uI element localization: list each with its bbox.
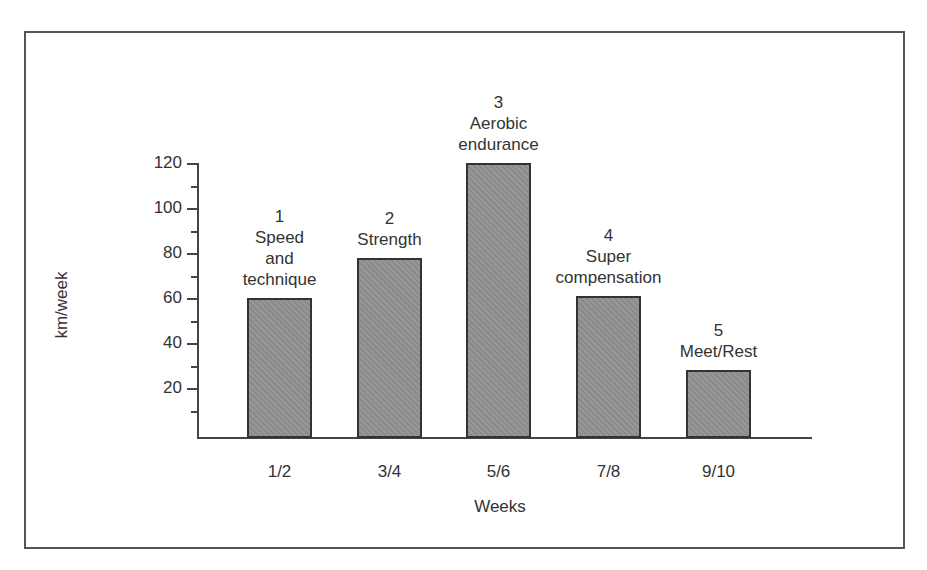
bar-annotation: 5 Meet/Rest — [639, 320, 799, 362]
y-tick-label: 80 — [122, 243, 182, 263]
y-tick-label: 20 — [122, 378, 182, 398]
y-axis-line — [197, 163, 199, 438]
bar-9-10 — [686, 370, 751, 438]
x-tick-label: 3/4 — [350, 462, 430, 482]
bar-annotation: 3 Aerobic endurance — [419, 92, 579, 155]
x-tick-label: 9/10 — [679, 462, 759, 482]
x-axis-label: Weeks — [420, 497, 580, 517]
bar-5-6 — [466, 163, 531, 438]
y-tick-label: 60 — [122, 288, 182, 308]
x-tick-label: 5/6 — [459, 462, 539, 482]
bar-1-2 — [247, 298, 312, 438]
x-tick-label: 1/2 — [240, 462, 320, 482]
y-tick-label: 100 — [122, 198, 182, 218]
x-tick-label: 7/8 — [569, 462, 649, 482]
bar-annotation: 4 Super compensation — [529, 225, 689, 288]
bar-3-4 — [357, 258, 422, 439]
y-tick-label: 40 — [122, 333, 182, 353]
bar-7-8 — [576, 296, 641, 438]
y-tick-label: 120 — [122, 153, 182, 173]
y-axis-label: km/week — [52, 245, 72, 365]
bar-annotation: 2 Strength — [310, 208, 470, 250]
